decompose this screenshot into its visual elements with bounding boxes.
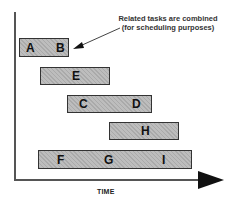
task-bar-e: E bbox=[40, 67, 110, 85]
task-label-i: I bbox=[162, 153, 165, 167]
task-label-a: A bbox=[26, 41, 35, 55]
task-bar-cd: C D bbox=[67, 95, 152, 113]
task-bar-h: H bbox=[109, 122, 179, 140]
task-label-h: H bbox=[141, 124, 150, 138]
task-label-f: F bbox=[57, 153, 64, 167]
task-label-c: C bbox=[79, 97, 88, 111]
task-label-d: D bbox=[132, 97, 141, 111]
task-bar-ab: A B bbox=[19, 38, 69, 57]
task-label-e: E bbox=[72, 69, 80, 83]
task-label-b: B bbox=[56, 41, 65, 55]
task-label-g: G bbox=[104, 153, 113, 167]
task-bar-fgi: F G I bbox=[38, 150, 192, 169]
